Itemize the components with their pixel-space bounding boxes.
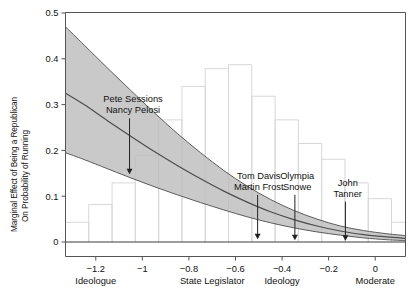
x-axis-anchor-label: Ideologue xyxy=(75,276,116,286)
x-axis-title: Ideology xyxy=(265,276,301,286)
x-tick-label: −1 xyxy=(137,264,148,274)
x-tick-label: −0.2 xyxy=(319,264,337,274)
annotation-arrow-head xyxy=(342,235,348,241)
annotation-label: Pete Sessions xyxy=(103,94,163,104)
histogram-bar xyxy=(205,69,228,242)
confidence-band-layer xyxy=(66,27,406,241)
confidence-interval-band xyxy=(66,27,406,241)
x-tick-label: −0.6 xyxy=(226,264,244,274)
x-tick-label: −0.4 xyxy=(273,264,291,274)
histogram-bar xyxy=(112,183,135,242)
annotation-label: Tanner xyxy=(334,189,362,199)
x-tick-label: 0 xyxy=(373,264,378,274)
y-tick-label: 0 xyxy=(53,237,58,247)
histogram-bar xyxy=(66,222,89,242)
annotation-arrow-head xyxy=(292,235,298,241)
annotation-label: Snowe xyxy=(283,182,311,192)
histogram-bar xyxy=(89,205,112,242)
y-tick-label: 0.4 xyxy=(46,54,59,64)
y-tick-label: 0.5 xyxy=(46,8,59,18)
x-axis-anchor-label: State Legislator xyxy=(180,276,245,286)
annotation-label: Martin Frost xyxy=(234,182,284,192)
x-tick-label: −0.8 xyxy=(180,264,198,274)
y-tick-label: 0.1 xyxy=(46,192,59,202)
x-tick-label: −1.2 xyxy=(87,264,105,274)
plot-canvas: 00.10.20.30.40.5−1.2−1−0.8−0.6−0.4−0.20I… xyxy=(0,0,418,289)
annotation-label: Olympia xyxy=(280,171,315,181)
annotation-label: Tom Davis xyxy=(237,171,281,181)
x-axis-anchor-label: Moderate xyxy=(356,276,395,286)
y-tick-label: 0.2 xyxy=(46,146,59,156)
annotation-label: John xyxy=(338,178,358,188)
annotation-label: Nancy Pelosi xyxy=(106,105,160,115)
y-tick-label: 0.3 xyxy=(46,100,59,110)
annotation-arrow-head xyxy=(255,234,261,240)
chart-figure: Marginal Effect of Being a Republican On… xyxy=(0,0,418,289)
